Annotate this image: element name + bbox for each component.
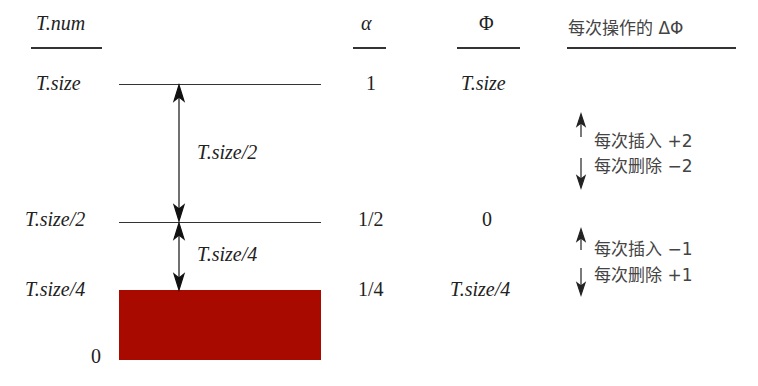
alpha-value-1: 1 <box>366 72 376 95</box>
delta-note-insert-lower: 每次插入 −1 <box>594 235 692 260</box>
delta-note-delete-lower: 每次删除 +1 <box>594 261 692 286</box>
alpha-value-half: 1/2 <box>358 208 384 231</box>
interval-label-quarter: T.size/4 <box>197 243 257 266</box>
phi-value-tsize: T.size <box>461 72 506 95</box>
interval-label-half: T.size/2 <box>197 141 257 164</box>
phi-value-zero: 0 <box>482 208 492 231</box>
delta-note-delete-upper: 每次删除 −2 <box>594 152 692 177</box>
alpha-value-quarter: 1/4 <box>358 278 384 301</box>
dimension-arrows <box>0 0 758 386</box>
phi-value-tsize-quarter: T.size/4 <box>450 278 510 301</box>
delta-note-insert-upper: 每次插入 +2 <box>594 127 692 152</box>
